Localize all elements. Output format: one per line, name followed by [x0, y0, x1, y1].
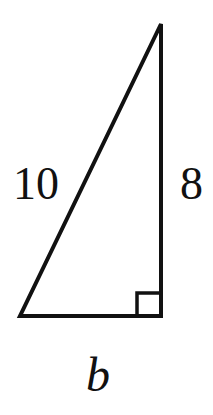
- base-label: b: [86, 348, 110, 401]
- right-angle-marker: [137, 293, 161, 316]
- hypotenuse-label: 10: [13, 158, 59, 209]
- vertical-leg-label: 8: [180, 158, 203, 209]
- triangle-diagram: 10 8 b: [0, 0, 213, 415]
